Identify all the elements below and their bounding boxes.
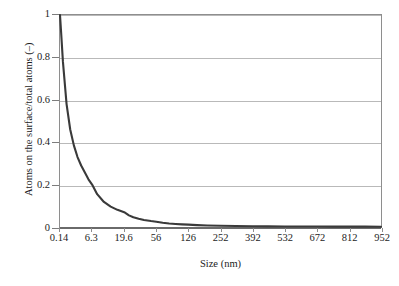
x-tick-label: 952 bbox=[374, 233, 390, 244]
y-axis-tick-labels: 00.20.40.60.81 bbox=[20, 14, 50, 228]
y-tick-label: 0.8 bbox=[37, 52, 50, 63]
x-tick-label: 56 bbox=[151, 233, 162, 244]
x-tick-label: 252 bbox=[213, 233, 229, 244]
x-tick-label: 532 bbox=[277, 233, 293, 244]
y-tick-mark bbox=[52, 142, 59, 143]
x-tick-label: 0.14 bbox=[50, 233, 68, 244]
chart-figure: Atoms on the surface/total atoms (–) 00.… bbox=[0, 0, 399, 286]
y-tick-label: 1 bbox=[45, 9, 50, 20]
y-tick-mark bbox=[52, 14, 59, 15]
y-tick-label: 0.4 bbox=[37, 137, 50, 148]
x-tick-label: 19.6 bbox=[114, 233, 132, 244]
y-tick-label: 0.2 bbox=[37, 180, 50, 191]
x-tick-label: 672 bbox=[310, 233, 326, 244]
plot-area bbox=[59, 14, 382, 228]
series-line-atoms-on-surface bbox=[60, 15, 381, 227]
x-tick-label: 392 bbox=[245, 233, 261, 244]
y-tick-mark bbox=[52, 100, 59, 101]
y-tick-mark bbox=[52, 185, 59, 186]
y-tick-label: 0.6 bbox=[37, 94, 50, 105]
x-tick-label: 126 bbox=[180, 233, 196, 244]
x-tick-label: 6.3 bbox=[85, 233, 98, 244]
y-tick-mark bbox=[52, 228, 59, 229]
y-axis-tick-marks bbox=[52, 14, 59, 228]
y-tick-mark bbox=[52, 57, 59, 58]
x-axis-title: Size (nm) bbox=[59, 259, 382, 270]
x-tick-label: 812 bbox=[342, 233, 358, 244]
x-axis-tick-labels: 0.146.319.656126252392532672812952 bbox=[59, 233, 382, 247]
